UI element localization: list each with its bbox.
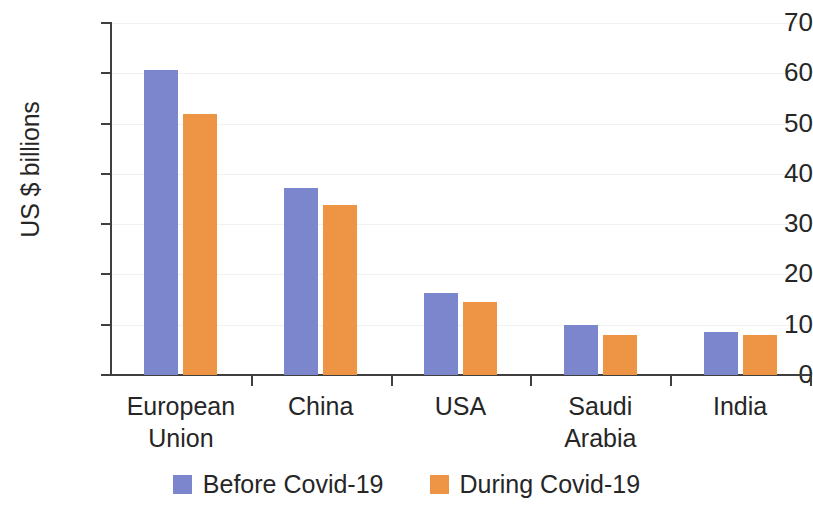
chart-legend: Before Covid-19During Covid-19 — [0, 470, 813, 499]
legend-swatch-icon — [430, 475, 449, 494]
category-label-line: Saudi — [530, 390, 670, 422]
x-axis-tick — [670, 376, 672, 386]
bar-during-covid — [463, 302, 497, 375]
category-label-line: India — [670, 390, 810, 422]
category-label: SaudiArabia — [530, 390, 670, 454]
y-axis-tick-label: 70 — [721, 9, 813, 35]
category-label: USA — [391, 390, 531, 422]
bar-before-covid — [144, 70, 178, 375]
x-axis-tick — [530, 376, 532, 386]
legend-swatch-icon — [173, 475, 192, 494]
x-axis-tick — [251, 376, 253, 386]
y-axis-tick-label: 40 — [721, 160, 813, 186]
y-axis-line — [110, 22, 112, 376]
legend-label: Before Covid-19 — [203, 470, 384, 499]
bar-chart: US $ billions 706050403020100 EuropeanUn… — [0, 0, 813, 512]
category-label-line: European — [111, 390, 251, 422]
bar-during-covid — [323, 205, 357, 375]
category-label: China — [251, 390, 391, 422]
gridline — [111, 23, 810, 24]
bar-before-covid — [564, 325, 598, 375]
category-label-line: China — [251, 390, 391, 422]
category-label: EuropeanUnion — [111, 390, 251, 454]
category-label-line: Arabia — [530, 422, 670, 454]
category-label-line: Union — [111, 422, 251, 454]
bar-before-covid — [704, 332, 738, 375]
bar-during-covid — [183, 114, 217, 375]
bar-before-covid — [424, 293, 458, 375]
legend-item-before-covid[interactable]: Before Covid-19 — [173, 470, 384, 499]
category-label-line: USA — [391, 390, 531, 422]
y-axis-tick-label: 50 — [721, 110, 813, 136]
y-axis-tick-label: 20 — [721, 260, 813, 286]
bar-during-covid — [603, 335, 637, 375]
bar-during-covid — [743, 335, 777, 375]
x-axis-tick — [810, 376, 812, 386]
y-axis-tick-label: 30 — [721, 210, 813, 236]
gridline — [111, 73, 810, 74]
x-axis-tick — [391, 376, 393, 386]
y-axis-tick-label: 60 — [721, 59, 813, 85]
legend-item-during-covid[interactable]: During Covid-19 — [430, 470, 641, 499]
legend-label: During Covid-19 — [460, 470, 641, 499]
bar-before-covid — [284, 188, 318, 375]
category-label: India — [670, 390, 810, 422]
y-axis-title: US $ billions — [16, 80, 45, 260]
